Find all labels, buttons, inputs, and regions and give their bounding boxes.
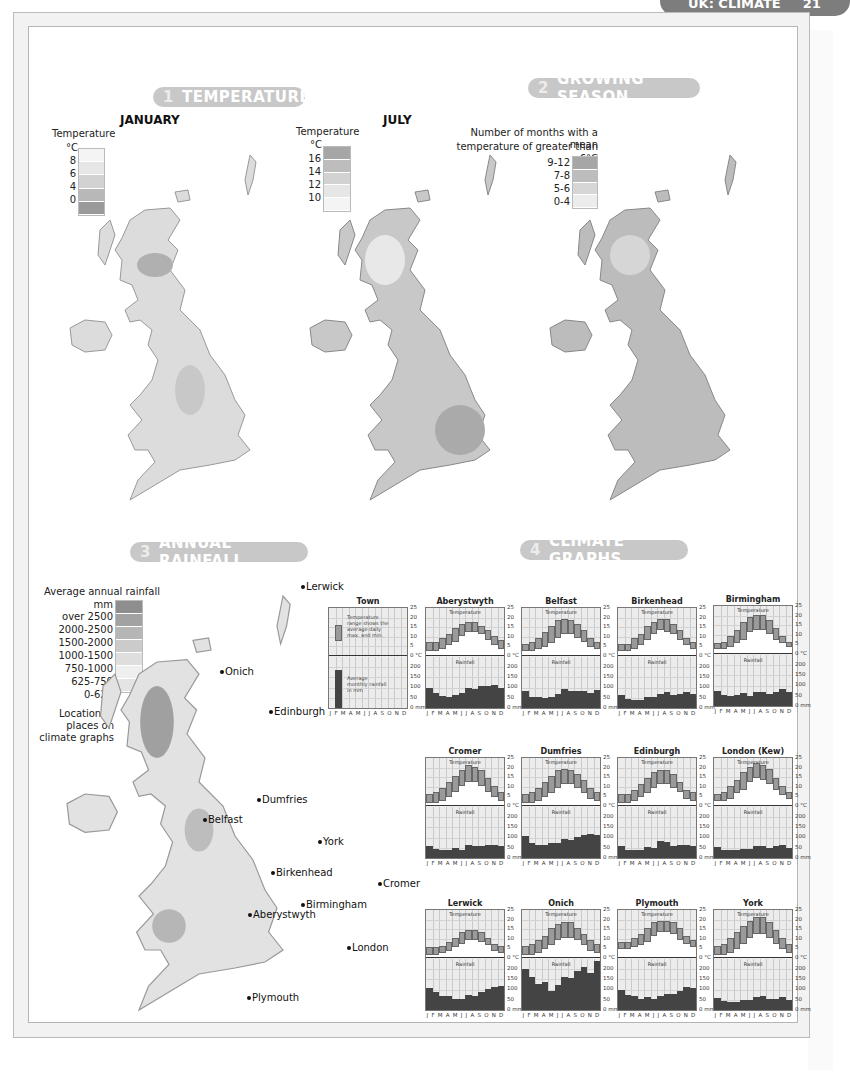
climate-graph-cromer: CromerTemperatureRainfall2520151050 °C20… [425,747,521,866]
location-dot-icon [269,710,273,714]
rainfall-panel: Rainfall [522,657,600,708]
month-labels: JFMAMJJASOND [713,708,793,714]
section-heading-climate-graphs: 4 CLIMATE GRAPHS [520,540,688,560]
place-birkenhead: Birkenhead [271,867,333,878]
rainfall-panel: Rainfall [426,959,504,1010]
place-belfast: Belfast [203,814,243,825]
climate-graph-plot: TemperatureRainfall [521,909,601,1011]
climate-graph-edinburgh: EdinburghTemperatureRainfall2520151050 °… [617,747,713,866]
month-labels: JFMAMJJASOND [617,710,697,716]
temperature-panel: Temperature [618,910,696,958]
climate-graph-plot: TemperatureRainfall [713,605,793,707]
temperature-range-bar [786,792,793,800]
temperature-range-bar [594,792,601,802]
section-number: 1 [163,88,174,106]
location-dot-icon [301,903,305,907]
month-labels: JFMAMJJASOND [521,710,601,716]
place-plymouth: Plymouth [247,992,299,1003]
section-title: ANNUAL RAINFALL [159,534,294,570]
temperature-range-bar [594,944,601,954]
rainfall-panel: Rainfall [618,657,696,708]
place-label: Birkenhead [276,867,333,878]
location-dot-icon [378,882,382,886]
rainfall-panel: Rainfall [714,959,792,1010]
climate-graph-london-kew-: London (Kew)TemperatureRainfall252015105… [713,747,809,866]
page-number: 21 [803,0,821,11]
temperature-label: Temperature [522,759,600,765]
location-dot-icon [220,670,224,674]
climate-graph-birmingham: BirminghamTemperatureRainfall2520151050 … [713,595,809,714]
growing-season-map [540,150,780,530]
climate-graph-title: Belfast [521,597,601,607]
place-label: London [352,942,389,953]
temperature-range-bar [690,940,697,948]
temperature-panel: Temperature [426,608,504,656]
place-york: York [318,836,344,847]
temperature-panel: Temperature [426,758,504,806]
place-cromer: Cromer [378,878,420,889]
rainfall-bar [786,1000,793,1010]
climate-graph-york: YorkTemperatureRainfall2520151050 °C2001… [713,899,809,1018]
temperature-range-bar [335,625,342,641]
place-london: London [347,942,389,953]
climate-graph-plot: TemperatureRainfall [425,757,505,859]
rainfall-label: Rainfall [522,809,600,815]
january-map-title: JANUARY [120,113,180,127]
section-heading-temperature: 1 TEMPERATURE [153,87,305,107]
section-title: TEMPERATURE [182,88,310,106]
july-legend-title: Temperature [296,126,359,138]
climate-graph-plot: TemperatureRainfall [425,909,505,1011]
month-labels: JFMAMJJASOND [328,710,408,716]
climate-graph-title: Cromer [425,747,505,757]
place-onich: Onich [220,666,254,677]
location-dot-icon [347,946,351,950]
page-edge-strip [808,30,833,1070]
rainfall-bar [335,670,342,708]
location-dot-icon [271,871,275,875]
rainfall-label: Rainfall [426,809,504,815]
temperature-label: Temperature [426,609,504,615]
january-temperature-map [60,150,300,530]
month-labels: JFMAMJJASOND [425,1012,505,1018]
climate-graph-plymouth: PlymouthTemperatureRainfall2520151050 °C… [617,899,713,1018]
location-dot-icon [318,840,322,844]
temperature-range-bar [498,946,505,954]
month-labels: JFMAMJJASOND [521,1012,601,1018]
place-aberystwyth: Aberystwyth [248,909,316,920]
temperature-range-bar [786,944,793,954]
rainfall-label: Rainfall [522,659,600,665]
rainfall-panel: Rainfall [426,657,504,708]
climate-graph-key: TownTemperature range shows the average … [328,597,424,716]
rainfall-bar [498,688,505,708]
place-label: Edinburgh [274,706,325,717]
temperature-panel: Temperature [522,608,600,656]
key-temperature-text: Temperature range shows the average dail… [347,614,389,638]
temperature-label: Temperature [618,911,696,917]
rainfall-bar [594,961,601,1010]
location-dot-icon [203,818,207,822]
rainfall-label: Rainfall [714,657,792,663]
month-labels: JFMAMJJASOND [713,1012,793,1018]
rainfall-bar [786,848,793,858]
key-rainfall-text: Average monthly rainfall in mm [347,675,387,693]
climate-graph-title: Lerwick [425,899,505,909]
climate-graph-title: Edinburgh [617,747,697,757]
temperature-panel: Temperature [618,758,696,806]
rainfall-panel: Average monthly rainfall in mm [329,657,407,708]
january-legend-title: Temperature [52,128,115,140]
section-title: CLIMATE GRAPHS [549,532,674,568]
rainfall-panel: Rainfall [522,807,600,858]
month-labels: JFMAMJJASOND [617,860,697,866]
climate-graph-lerwick: LerwickTemperatureRainfall2520151050 °C2… [425,899,521,1018]
climate-graph-plot: TemperatureRainfall [521,757,601,859]
rainfall-label: Rainfall [714,961,792,967]
rainfall-bar [690,846,697,858]
section-number: 2 [538,79,549,97]
place-label: Aberystwyth [253,909,316,920]
rainfall-bar [498,986,505,1010]
rainfall-panel: Rainfall [618,807,696,858]
temperature-panel: Temperature [522,758,600,806]
location-dot-icon [248,913,252,917]
temperature-panel: Temperature range shows the average dail… [329,608,407,656]
climate-graph-title: Birkenhead [617,597,697,607]
